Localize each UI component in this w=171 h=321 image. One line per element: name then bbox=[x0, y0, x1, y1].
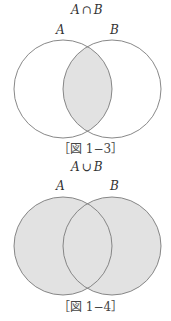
figure-union: A∪B A B ［図 1−4］ bbox=[0, 160, 171, 321]
figure-intersection: A∩B A B ［図 1−3］ bbox=[0, 0, 171, 160]
venn-diagram-union bbox=[0, 160, 171, 305]
venn-diagram-intersection bbox=[0, 0, 171, 150]
figure-caption: ［図 1−4］ bbox=[58, 301, 123, 313]
figure-caption: ［図 1−3］ bbox=[58, 143, 123, 155]
